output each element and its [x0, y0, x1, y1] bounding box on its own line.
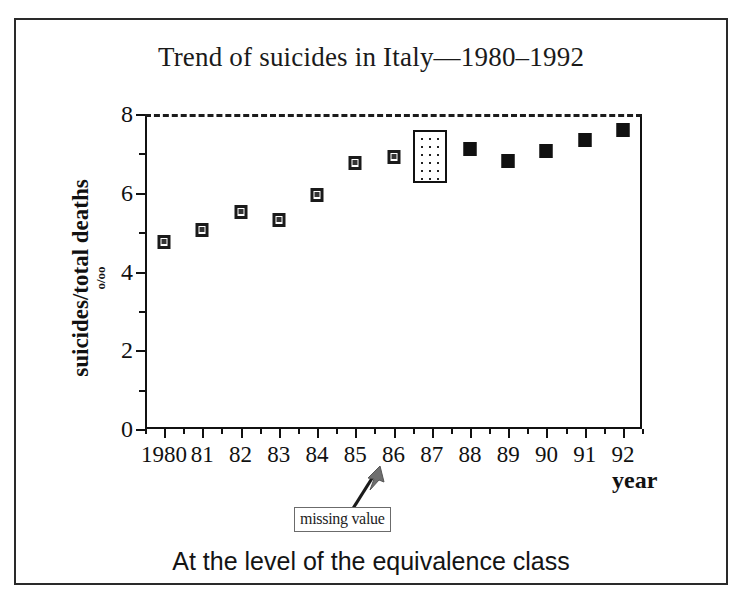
- y-tick-major: [136, 114, 145, 116]
- x-tick-minor: [451, 429, 453, 434]
- x-tick-label: 91: [573, 443, 596, 466]
- reference-line-dashed: [145, 114, 642, 117]
- data-point: [196, 223, 209, 237]
- x-tick-label: 82: [229, 443, 252, 466]
- x-tick-major: [508, 429, 510, 438]
- x-tick-major: [317, 429, 319, 438]
- data-point: [158, 235, 171, 249]
- x-tick-minor: [527, 429, 529, 434]
- x-tick-minor: [145, 429, 147, 434]
- data-point: [272, 213, 285, 227]
- x-axis-title: year: [612, 467, 657, 494]
- x-tick-minor: [298, 429, 300, 434]
- x-tick-label: 86: [382, 443, 405, 466]
- y-tick-label: 6: [121, 181, 133, 205]
- y-tick-major: [136, 350, 145, 352]
- x-tick-major: [164, 429, 166, 438]
- x-tick-major: [202, 429, 204, 438]
- x-tick-label: 90: [535, 443, 558, 466]
- x-tick-label: 81: [191, 443, 214, 466]
- y-axis-title-text: suicides/total deaths: [69, 179, 92, 376]
- y-axis-title: suicides/total deaths o/oo: [69, 179, 107, 376]
- x-tick-label: 83: [267, 443, 290, 466]
- x-tick-major: [585, 429, 587, 438]
- y-tick-minor: [139, 232, 145, 234]
- chart-title: Trend of suicides in Italy—1980–1992: [16, 42, 726, 73]
- arrow-up-right-icon: [346, 464, 390, 512]
- x-tick-label: 87: [420, 443, 443, 466]
- x-tick-minor: [604, 429, 606, 434]
- y-tick-label: 4: [121, 260, 133, 284]
- missing-value-highlight-box: [413, 130, 447, 183]
- x-tick-minor: [374, 429, 376, 434]
- data-point: [349, 156, 362, 170]
- data-point: [463, 142, 476, 156]
- x-tick-label: 84: [306, 443, 329, 466]
- plot-right-border: [640, 114, 642, 429]
- x-tick-minor: [566, 429, 568, 434]
- y-axis-units: o/oo: [94, 266, 107, 289]
- y-axis-line: [145, 114, 147, 429]
- y-tick-minor: [139, 390, 145, 392]
- data-point: [234, 205, 247, 219]
- missing-value-annotation: missing value: [294, 507, 391, 532]
- data-point: [387, 150, 400, 164]
- data-point: [616, 123, 629, 137]
- x-tick-label: 85: [344, 443, 367, 466]
- x-tick-major: [432, 429, 434, 438]
- x-tick-major: [355, 429, 357, 438]
- data-point: [540, 144, 553, 158]
- x-tick-major: [546, 429, 548, 438]
- x-tick-minor: [642, 429, 644, 434]
- x-tick-major: [241, 429, 243, 438]
- y-tick-label: 0: [121, 417, 133, 441]
- x-tick-label: 89: [497, 443, 520, 466]
- data-point: [502, 154, 515, 168]
- x-tick-minor: [489, 429, 491, 434]
- x-tick-minor: [336, 429, 338, 434]
- y-tick-minor: [139, 311, 145, 313]
- x-tick-major: [279, 429, 281, 438]
- x-tick-major: [623, 429, 625, 438]
- figure-caption: At the level of the equivalence class: [16, 547, 726, 576]
- figure-frame: Trend of suicides in Italy—1980–1992 sui…: [14, 18, 728, 585]
- y-tick-minor: [139, 153, 145, 155]
- data-point: [578, 133, 591, 147]
- y-axis-title-container: suicides/total deaths o/oo: [68, 128, 108, 428]
- x-tick-minor: [260, 429, 262, 434]
- plot-area: 02468 1980818283848586878889909192: [145, 114, 642, 429]
- y-tick-major: [136, 429, 145, 431]
- x-tick-minor: [413, 429, 415, 434]
- x-tick-label: 88: [458, 443, 481, 466]
- x-tick-minor: [183, 429, 185, 434]
- y-tick-major: [136, 193, 145, 195]
- x-tick-label: 1980: [141, 443, 187, 466]
- y-tick-label: 2: [121, 338, 133, 362]
- x-tick-label: 92: [611, 443, 634, 466]
- x-tick-major: [470, 429, 472, 438]
- x-tick-minor: [221, 429, 223, 434]
- y-tick-label: 8: [121, 102, 133, 126]
- data-point: [311, 188, 324, 202]
- x-tick-major: [394, 429, 396, 438]
- y-tick-major: [136, 272, 145, 274]
